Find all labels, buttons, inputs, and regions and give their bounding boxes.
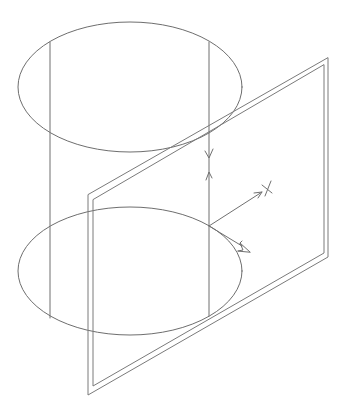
x-axis-icon — [209, 192, 262, 226]
ucs-icon — [205, 149, 272, 252]
bottom-ellipse[interactable] — [18, 207, 242, 335]
cone-axis-line — [209, 226, 242, 246]
plane-outer-frame[interactable] — [88, 58, 328, 395]
cone-arrow-tick — [240, 241, 242, 243]
drawing-canvas[interactable] — [0, 0, 348, 414]
inclined-plane[interactable] — [88, 58, 328, 395]
drawing-svg — [0, 0, 348, 414]
